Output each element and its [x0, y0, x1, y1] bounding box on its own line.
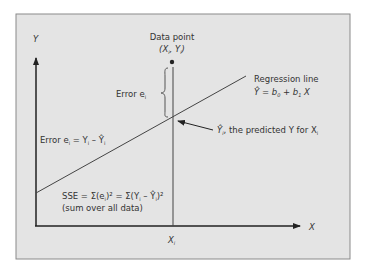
data-point-marker — [170, 60, 174, 64]
x-axis-label: X — [308, 222, 315, 232]
sse-formula: SSE = Σ(ei)² = Σ(Yi – Ŷi)² — [62, 190, 164, 202]
regression-equation: Ŷ = b0 + b1 X — [254, 86, 310, 98]
predicted-label: Ŷi, the predicted Y for Xi — [217, 124, 318, 136]
data-point-coords: (Xi, Yi) — [159, 44, 185, 55]
error-formula: Error ei = Yi – Ŷi — [40, 134, 105, 146]
sse-note: (sum over all data) — [62, 203, 143, 213]
data-point-title: Data point — [150, 32, 195, 42]
regression-line-title: Regression line — [254, 74, 319, 84]
error-brace-label: Error ei — [116, 89, 146, 100]
regression-error-diagram: Y X Xi Data point (Xi, Yi) Error ei Regr… — [0, 0, 367, 273]
y-axis-label: Y — [33, 34, 39, 44]
